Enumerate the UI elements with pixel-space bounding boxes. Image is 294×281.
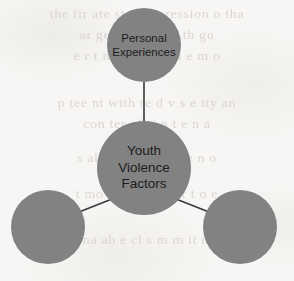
connector-hub-to-factor-2 <box>79 199 112 212</box>
node-factor-3-unlabeled[interactable] <box>203 190 277 264</box>
node-youth-violence-factors[interactable]: Youth Violence Factors <box>97 121 191 215</box>
connector-hub-to-factor-3 <box>176 199 209 212</box>
node-factor-2-unlabeled[interactable] <box>11 190 85 264</box>
node-personal-experiences[interactable]: Personal Experiences <box>107 8 181 82</box>
node-label: Personal Experiences <box>108 31 179 59</box>
diagram-canvas: the fir ate state s pression o tha ar ge… <box>0 0 294 281</box>
node-label: Youth Violence Factors <box>114 143 174 193</box>
